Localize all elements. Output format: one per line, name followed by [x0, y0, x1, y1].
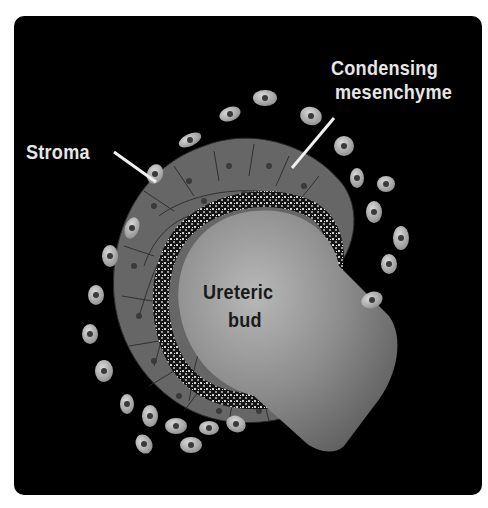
stroma-pointer-line	[114, 152, 156, 182]
condensing-label-line1: Condensing	[331, 56, 438, 79]
condensing-label-line2: mesenchyme	[335, 80, 452, 103]
stroma-label: Stroma	[26, 140, 90, 163]
ureteric-label-line1: Ureteric	[203, 280, 273, 303]
diagram-panel: Stroma Condensing mesenchyme Ureteric bu…	[14, 16, 482, 495]
ureteric-label-line2: bud	[228, 308, 262, 331]
